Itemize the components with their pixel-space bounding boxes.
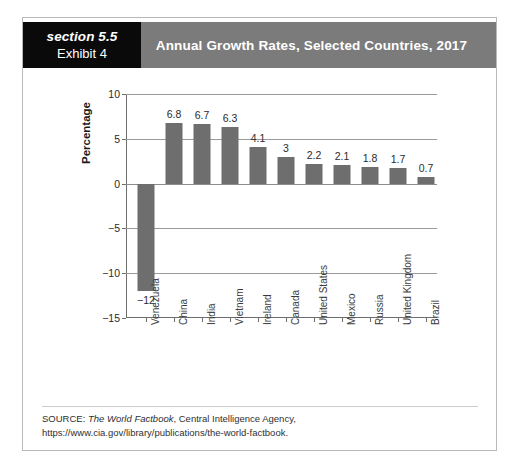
bar-slot[interactable]: −12Venezuela bbox=[132, 94, 160, 318]
bar-value-label: 6.8 bbox=[167, 108, 182, 120]
source-note: SOURCE: The World Factbook, Central Inte… bbox=[42, 412, 480, 440]
exhibit-header: section 5.5 Exhibit 4 Annual Growth Rate… bbox=[23, 22, 496, 68]
bar-value-label: 2.1 bbox=[335, 150, 350, 162]
source-divider bbox=[42, 406, 478, 407]
y-tick-label: 10 bbox=[108, 88, 120, 100]
y-tick-mark bbox=[122, 273, 126, 274]
bar[interactable] bbox=[138, 184, 155, 292]
bar-value-label: 4.1 bbox=[251, 132, 266, 144]
chart-title: Annual Growth Rates, Selected Countries,… bbox=[156, 38, 467, 53]
bar-value-label: 2.2 bbox=[307, 149, 322, 161]
bar[interactable] bbox=[362, 167, 379, 183]
bar-slot[interactable]: 1.8Russia bbox=[356, 94, 384, 318]
bar-slot[interactable]: 4.1Ireland bbox=[244, 94, 272, 318]
x-tick-mark bbox=[314, 318, 315, 322]
category-label: Brazil bbox=[430, 300, 441, 325]
y-tick-mark bbox=[122, 318, 126, 319]
section-number-label: section 5.5 bbox=[47, 29, 118, 45]
x-tick-mark bbox=[146, 318, 147, 322]
bar-slot[interactable]: 6.7India bbox=[188, 94, 216, 318]
exhibit-card: section 5.5 Exhibit 4 Annual Growth Rate… bbox=[22, 17, 497, 451]
chart-area: Percentage 1050−5−10−15 −12Venezuela6.8C… bbox=[23, 68, 496, 404]
plot-area: 1050−5−10−15 −12Venezuela6.8China6.7Indi… bbox=[126, 94, 437, 318]
bar-slot[interactable]: 2.2United States bbox=[300, 94, 328, 318]
x-tick-mark bbox=[286, 318, 287, 322]
source-publication-title: The World Factbook bbox=[88, 413, 174, 424]
x-tick-mark bbox=[426, 318, 427, 322]
bar-value-label: 6.3 bbox=[223, 112, 238, 124]
x-tick-mark bbox=[370, 318, 371, 322]
bar[interactable] bbox=[278, 157, 295, 184]
y-tick-label: −10 bbox=[102, 267, 120, 279]
y-axis-title: Percentage bbox=[80, 102, 92, 164]
bar[interactable] bbox=[306, 164, 323, 184]
y-tick-label: −15 bbox=[102, 312, 120, 324]
section-block: section 5.5 Exhibit 4 bbox=[23, 22, 141, 68]
title-banner: Annual Growth Rates, Selected Countries,… bbox=[141, 22, 496, 68]
bar[interactable] bbox=[418, 177, 435, 183]
bar[interactable] bbox=[390, 168, 407, 183]
x-tick-mark bbox=[230, 318, 231, 322]
bar[interactable] bbox=[334, 165, 351, 184]
bar-value-label: 1.7 bbox=[391, 153, 406, 165]
x-tick-mark bbox=[342, 318, 343, 322]
bar[interactable] bbox=[194, 124, 211, 184]
bar-slot[interactable]: 0.7Brazil bbox=[412, 94, 440, 318]
x-tick-mark bbox=[398, 318, 399, 322]
bar-slot[interactable]: 1.7United Kingdom bbox=[384, 94, 412, 318]
y-axis-line bbox=[126, 94, 127, 318]
bar-value-label: 3 bbox=[283, 142, 289, 154]
bar-value-label: 1.8 bbox=[363, 152, 378, 164]
exhibit-number-label: Exhibit 4 bbox=[57, 45, 107, 62]
bar-slot[interactable]: 6.3Vietnam bbox=[216, 94, 244, 318]
bar-slot[interactable]: 6.8China bbox=[160, 94, 188, 318]
bar[interactable] bbox=[166, 123, 183, 184]
x-tick-mark bbox=[174, 318, 175, 322]
y-tick-mark bbox=[122, 184, 126, 185]
source-prefix: SOURCE: bbox=[42, 413, 88, 424]
y-tick-mark bbox=[122, 139, 126, 140]
y-tick-label: −5 bbox=[108, 222, 120, 234]
x-tick-mark bbox=[202, 318, 203, 322]
y-tick-mark bbox=[122, 94, 126, 95]
bar-value-label: 0.7 bbox=[419, 162, 434, 174]
bar-slot[interactable]: 2.1Mexico bbox=[328, 94, 356, 318]
bar[interactable] bbox=[250, 147, 267, 184]
y-tick-label: 0 bbox=[114, 178, 120, 190]
y-tick-mark bbox=[122, 228, 126, 229]
bar-slot[interactable]: 3Canada bbox=[272, 94, 300, 318]
x-tick-mark bbox=[258, 318, 259, 322]
bar-value-label: 6.7 bbox=[195, 109, 210, 121]
gridline bbox=[126, 318, 437, 319]
bar[interactable] bbox=[222, 127, 239, 183]
y-tick-label: 5 bbox=[114, 133, 120, 145]
